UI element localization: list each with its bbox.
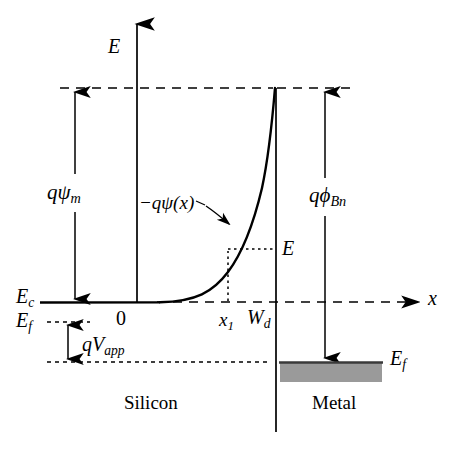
curve-label-leader-tail — [196, 201, 205, 205]
silicon-region-label: Silicon — [124, 393, 178, 412]
position-axis-label: x — [428, 288, 437, 308]
origin-label: 0 — [116, 308, 126, 328]
minus-q-psi-x-label: −qψ(x) — [139, 193, 194, 212]
ef-left-base: E — [16, 309, 28, 331]
q-psi-m-subscript: m — [71, 190, 81, 206]
schottky-band-diagram-figure: E qψm −qψ(x) qϕBn Ec Ef 0 x1 Wd x E qVap… — [0, 0, 452, 453]
ec-base: E — [16, 285, 28, 307]
q-v-app-label: qVapp — [82, 334, 125, 357]
q-v-app-subscript: app — [104, 343, 124, 358]
ef-right-subscript: f — [402, 357, 406, 372]
ef-left-subscript: f — [28, 319, 32, 334]
curve-label-leader-arrow — [206, 206, 229, 224]
wd-base: W — [247, 306, 264, 328]
carrier-energy-label: E — [282, 238, 294, 258]
q-psi-m-label: qψm — [47, 182, 81, 205]
q-psi-m-psi: ψ — [58, 180, 71, 204]
metal-fermi-label: Ef — [390, 348, 406, 371]
x1-label: x1 — [219, 310, 234, 333]
band-diagram-canvas — [0, 0, 452, 453]
depletion-width-label: Wd — [247, 307, 270, 330]
silicon-fermi-label: Ef — [16, 310, 32, 333]
q-phi-bn-phi: ϕ — [320, 183, 331, 207]
conduction-band-label: Ec — [16, 286, 34, 309]
q-v-app-v: V — [92, 333, 104, 355]
ef-right-base: E — [390, 347, 402, 369]
q-psi-m-q: q — [47, 180, 58, 204]
wd-subscript: d — [264, 316, 271, 331]
q-phi-bn-q: q — [309, 183, 320, 207]
energy-axis-label: E — [108, 36, 120, 56]
ec-subscript: c — [28, 295, 34, 310]
x1-subscript: 1 — [227, 318, 233, 333]
metal-region-label: Metal — [312, 393, 356, 412]
metal-filled-band — [280, 363, 382, 382]
q-v-app-q: q — [82, 333, 92, 355]
q-phi-bn-subscript: Bn — [330, 193, 346, 209]
q-phi-bn-label: qϕBn — [309, 185, 346, 208]
